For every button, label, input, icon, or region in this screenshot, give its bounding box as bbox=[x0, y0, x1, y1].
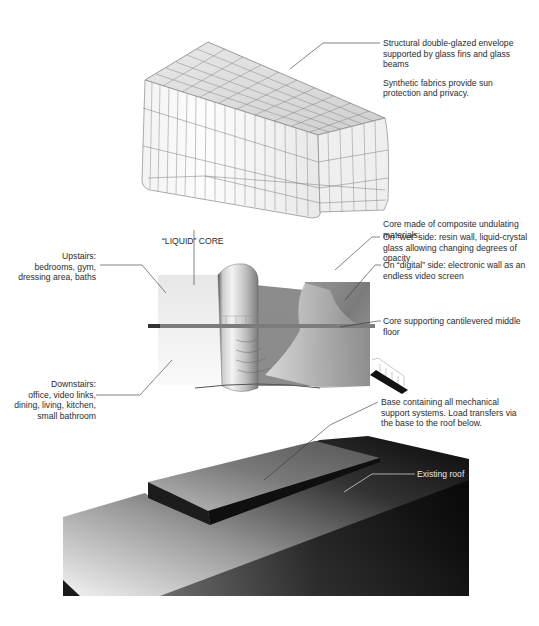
downstairs-annotation: Downstairs: office, video links, dining,… bbox=[0, 379, 96, 421]
existing-roof-label: Existing roof bbox=[417, 469, 464, 480]
core-support-annotation: Core supporting cantilevered middle floo… bbox=[383, 316, 535, 337]
digital-side-text-line: endless video screen bbox=[383, 271, 535, 282]
upstairs-text-line: Upstairs: bbox=[0, 251, 96, 262]
base-annotation: Base containing all mechanical support s… bbox=[381, 397, 536, 429]
envelope-text-line: beams bbox=[383, 59, 533, 70]
upstairs-annotation: Upstairs: bedrooms, gym, dressing area, … bbox=[0, 251, 96, 283]
upstairs-text-line: bedrooms, gym, bbox=[0, 262, 96, 273]
core-support-text-line: floor bbox=[383, 327, 535, 338]
downstairs-text-line: office, video links, bbox=[0, 390, 96, 401]
downstairs-text-line: small bathroom bbox=[0, 411, 96, 422]
liquid-core-label: “LIQUID” CORE bbox=[162, 236, 224, 247]
liquid-core-text: “LIQUID” CORE bbox=[162, 236, 224, 247]
wet-side-text-line: On “wet” side: resin wall, liquid-crysta… bbox=[383, 232, 535, 243]
liquid-core-illustration bbox=[148, 264, 408, 394]
fabrics-text-line: Synthetic fabrics provide sun bbox=[383, 78, 533, 89]
digital-side-annotation: On “digital” side: electronic wall as an… bbox=[383, 260, 535, 281]
wet-side-annotation: On “wet” side: resin wall, liquid-crysta… bbox=[383, 232, 535, 264]
wet-side-text-line: glass allowing changing degrees of bbox=[383, 243, 535, 254]
base-text-line: the base to the roof below. bbox=[381, 418, 536, 429]
envelope-text-line: Structural double-glazed envelope bbox=[383, 38, 533, 49]
existing-roof-text: Existing roof bbox=[417, 469, 464, 480]
roof-illustration bbox=[63, 436, 469, 596]
fabrics-text-line: protection and privacy. bbox=[383, 88, 533, 99]
base-text-line: support systems. Load transfers via bbox=[381, 408, 536, 419]
glass-envelope-illustration bbox=[142, 42, 389, 218]
base-text-line: Base containing all mechanical bbox=[381, 397, 536, 408]
downstairs-text-line: Downstairs: bbox=[0, 379, 96, 390]
envelope-text-line: supported by glass fins and glass bbox=[383, 49, 533, 60]
envelope-annotation: Structural double-glazed envelope suppor… bbox=[383, 38, 533, 99]
core-support-text-line: Core supporting cantilevered middle bbox=[383, 316, 535, 327]
upstairs-text-line: dressing area, baths bbox=[0, 272, 96, 283]
core-materials-text-line: Core made of composite undulating bbox=[383, 219, 533, 230]
downstairs-text-line: dining, living, kitchen, bbox=[0, 400, 96, 411]
digital-side-text-line: On “digital” side: electronic wall as an bbox=[383, 260, 535, 271]
